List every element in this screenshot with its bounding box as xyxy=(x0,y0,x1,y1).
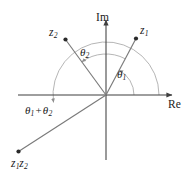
theta2-subscript: 2 xyxy=(86,51,90,60)
z1z2-subscript-a: 1 xyxy=(16,162,20,171)
theta-sum-subscript-b: 2 xyxy=(48,109,52,118)
z1-base: z xyxy=(140,24,144,36)
vector-label-z1: z1 xyxy=(140,25,148,37)
theta-sum-subscript-a: 1 xyxy=(31,109,35,118)
real-axis-label: Re xyxy=(168,99,181,111)
theta1-subscript: 1 xyxy=(123,73,127,82)
angle-label-theta1-plus-theta2: θ1+θ2 xyxy=(25,105,52,116)
theta-sum-operator: + xyxy=(34,104,43,116)
z1z2-base-a: z xyxy=(11,157,15,169)
z2-subscript: 2 xyxy=(54,31,58,40)
z1z2-subscript-b: 2 xyxy=(24,162,28,171)
argand-diagram-figure: Im Re z1 z2 z1z2 θ1 θ2 θ1+θ2 xyxy=(0,0,196,173)
angle-label-theta2: θ2 xyxy=(80,47,89,58)
angle-label-theta1: θ1 xyxy=(117,69,126,80)
ray-z1 xyxy=(106,39,136,96)
z1-subscript: 1 xyxy=(145,29,149,38)
endpoint-dot-z1z2 xyxy=(16,149,20,153)
endpoint-dot-z1 xyxy=(134,36,138,40)
z2-base: z xyxy=(49,26,53,38)
vector-label-z1z2: z1z2 xyxy=(11,158,28,170)
imaginary-axis-label: Im xyxy=(96,12,109,24)
vector-label-z2: z2 xyxy=(49,27,57,39)
theta1-symbol: θ xyxy=(117,68,122,80)
figure-canvas xyxy=(0,0,196,173)
theta2-symbol: θ xyxy=(80,46,85,58)
theta-sum-symbol-a: θ xyxy=(25,104,30,116)
axes-group xyxy=(18,20,172,160)
endpoint-dot-z2 xyxy=(63,37,67,41)
ray-z1z2 xyxy=(19,95,107,152)
